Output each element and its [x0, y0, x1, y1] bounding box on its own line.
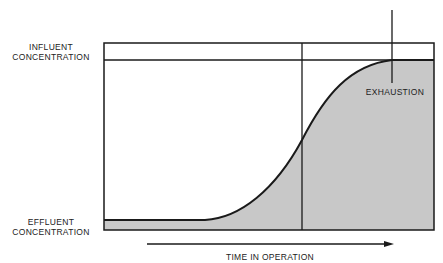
influent-label-line1: INFLUENT: [6, 42, 96, 52]
x-axis-label: TIME IN OPERATION: [200, 252, 340, 262]
breakthrough-area: [104, 60, 434, 230]
exhaustion-label: EXHAUSTION: [355, 87, 435, 97]
effluent-label-line2: CONCENTRATION: [6, 227, 96, 237]
influent-concentration-label: INFLUENT CONCENTRATION: [6, 42, 96, 62]
effluent-concentration-label: EFFLUENT CONCENTRATION: [6, 217, 96, 237]
influent-label-line2: CONCENTRATION: [6, 52, 96, 62]
time-arrow-head-icon: [384, 241, 394, 247]
effluent-label-line1: EFFLUENT: [6, 217, 96, 227]
